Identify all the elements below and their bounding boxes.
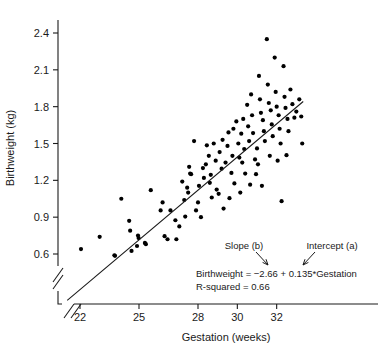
data-point (262, 129, 266, 133)
data-point (240, 160, 244, 164)
data-point (299, 114, 303, 118)
data-point (217, 192, 221, 196)
y-tick-label: 0.6 (34, 248, 49, 260)
data-point (165, 237, 169, 241)
data-point (241, 117, 245, 121)
data-point (257, 74, 261, 78)
data-point (194, 208, 198, 212)
data-point (253, 157, 257, 161)
data-point (236, 141, 240, 145)
y-tick-label: 0.9 (34, 211, 49, 223)
y-tick-label: 1.5 (34, 138, 49, 150)
data-point (246, 124, 250, 128)
data-point (284, 153, 288, 157)
data-point (144, 242, 148, 246)
data-point (127, 219, 131, 223)
data-point (273, 55, 277, 59)
data-point (230, 154, 234, 158)
data-point (270, 122, 274, 126)
data-point (294, 109, 298, 113)
data-point (212, 141, 216, 145)
y-tick-label: 2.1 (34, 64, 49, 76)
data-point (183, 214, 187, 218)
x-tick-label: 28 (192, 311, 204, 323)
plot-canvas: 0.60.91.21.51.82.12.4 2225283032 Slope (… (0, 0, 382, 347)
data-point (196, 200, 200, 204)
data-point (259, 111, 263, 115)
slope-annotation-label: Slope (b) (225, 240, 264, 251)
data-point (186, 191, 190, 195)
data-point (247, 139, 251, 143)
data-point (189, 172, 193, 176)
y-tick-label: 1.2 (34, 174, 49, 186)
data-point (285, 117, 289, 121)
data-point (229, 171, 233, 175)
data-point (251, 131, 255, 135)
data-point (202, 176, 206, 180)
data-point (254, 172, 258, 176)
data-point (283, 106, 287, 110)
data-point (274, 90, 278, 94)
data-point (220, 138, 224, 142)
data-point (258, 97, 262, 101)
data-point (79, 247, 83, 251)
y-axis-ticks: 0.60.91.21.51.82.12.4 (34, 27, 58, 260)
data-point (300, 141, 304, 145)
data-point (221, 206, 225, 210)
intercept-annotation-label: Intercept (a) (306, 240, 357, 251)
data-point (269, 108, 273, 112)
data-point (201, 166, 205, 170)
intercept-arrow-line (303, 252, 315, 265)
data-point (98, 235, 102, 239)
data-point (260, 184, 264, 188)
data-point (177, 224, 181, 228)
data-point (261, 118, 265, 122)
y-axis-title: Birthweight (kg) (4, 110, 16, 186)
regression-equation-text: Birthweight = −2.66 + 0.135*Gestation (196, 268, 357, 279)
data-point (119, 197, 123, 201)
data-point (271, 134, 275, 138)
data-point (276, 159, 280, 163)
data-point (215, 187, 219, 191)
data-point (149, 188, 153, 192)
y-tick-label: 2.4 (34, 27, 49, 39)
data-point (263, 139, 267, 143)
data-point (268, 154, 272, 158)
data-point (161, 200, 165, 204)
data-points-layer (79, 37, 304, 258)
data-point (279, 141, 283, 145)
data-point (245, 103, 249, 107)
data-point (223, 160, 227, 164)
y-axis-break-mark-2 (53, 275, 63, 289)
axis-corner-connector (58, 291, 62, 304)
data-point (288, 87, 292, 91)
data-point (209, 173, 213, 177)
data-point (174, 237, 178, 241)
data-point (234, 119, 238, 123)
data-point (277, 113, 281, 117)
data-point (281, 64, 285, 68)
data-point (238, 191, 242, 195)
data-point (297, 97, 301, 101)
data-point (265, 37, 269, 41)
data-point (113, 254, 117, 258)
slope-arrow-line (256, 252, 268, 265)
data-point (128, 229, 132, 233)
x-tick-label: 32 (271, 311, 283, 323)
data-point (275, 105, 279, 109)
data-point (192, 139, 196, 143)
data-point (282, 95, 286, 99)
data-point (286, 129, 290, 133)
data-point (197, 184, 201, 188)
data-point (292, 116, 296, 120)
data-point (159, 208, 163, 212)
data-point (256, 162, 260, 166)
data-point (231, 127, 235, 131)
data-point (162, 234, 166, 238)
data-point (218, 150, 222, 154)
x-tick-label: 25 (133, 311, 145, 323)
data-point (180, 179, 184, 183)
data-point (227, 196, 231, 200)
data-point (279, 199, 283, 203)
data-point (248, 183, 252, 187)
